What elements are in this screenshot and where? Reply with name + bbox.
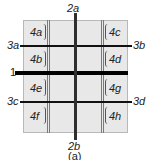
label-4e: 4e <box>30 83 42 94</box>
line-3d <box>75 101 132 103</box>
label-4h: 4h <box>109 111 121 122</box>
brace-4f-icon <box>42 107 46 124</box>
line-2 <box>74 13 77 140</box>
figure-caption: (a) <box>68 150 81 160</box>
line-3c <box>20 101 75 103</box>
label-1: 1 <box>10 67 16 78</box>
label-3a: 3a <box>7 40 19 51</box>
line-3a <box>20 45 75 47</box>
right-inner-line-2 <box>103 20 104 133</box>
label-3c: 3c <box>7 96 19 107</box>
label-4f: 4f <box>30 111 39 122</box>
brace-4b-icon <box>42 51 46 67</box>
label-3d: 3d <box>133 96 145 107</box>
label-2a: 2a <box>67 3 79 14</box>
label-4a: 4a <box>30 27 42 38</box>
line-3b <box>75 45 132 47</box>
label-4b: 4b <box>30 54 42 65</box>
left-inner-line <box>47 20 48 133</box>
label-3b: 3b <box>133 40 145 51</box>
label-4g: 4g <box>109 83 121 94</box>
right-inner-line <box>101 20 102 133</box>
brace-4e-icon <box>42 79 46 96</box>
line-1 <box>15 71 128 75</box>
brace-4a-icon <box>42 24 46 40</box>
label-4d: 4d <box>109 54 121 65</box>
left-inner-line-2 <box>49 20 50 133</box>
label-4c: 4c <box>109 27 121 38</box>
